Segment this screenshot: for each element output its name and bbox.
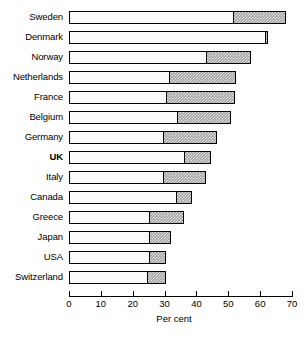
bar-segment-shaded (184, 151, 211, 164)
bar-segment-base (69, 71, 169, 84)
bar-area (66, 31, 308, 44)
x-axis-tick (69, 291, 70, 296)
bar-chart: SwedenDenmarkNorwayNetherlandsFranceBelg… (0, 0, 308, 339)
category-label-usa: USA (0, 252, 66, 262)
bar-area (66, 171, 308, 184)
x-axis-tick-label: 20 (127, 298, 138, 309)
bar-segment-base (69, 251, 149, 264)
bar-segment-base (69, 211, 149, 224)
bar-segment-base (69, 151, 184, 164)
category-label-uk: UK (0, 152, 66, 162)
chart-row: Netherlands (0, 67, 308, 87)
x-axis-tick (260, 291, 261, 296)
bar-segment-shaded (147, 271, 166, 284)
category-label-italy: Italy (0, 172, 66, 182)
bar-segment-shaded (149, 211, 184, 224)
chart-row: Norway (0, 47, 308, 67)
chart-row: USA (0, 247, 308, 267)
bar-segment-base (69, 271, 147, 284)
bar-area (66, 131, 308, 144)
x-axis-tick-label: 40 (191, 298, 202, 309)
x-axis-title: Per cent (0, 313, 308, 324)
bar-denmark[interactable] (69, 31, 268, 44)
bar-italy[interactable] (69, 171, 206, 184)
category-label-germany: Germany (0, 132, 66, 142)
bar-area (66, 51, 308, 64)
bar-segment-shaded (177, 111, 231, 124)
bar-uk[interactable] (69, 151, 211, 164)
bar-japan[interactable] (69, 231, 171, 244)
x-axis-tick (292, 291, 293, 296)
bar-area (66, 151, 308, 164)
bar-sweden[interactable] (69, 11, 286, 24)
category-label-norway: Norway (0, 52, 66, 62)
chart-row: UK (0, 147, 308, 167)
chart-row: Belgium (0, 107, 308, 127)
bar-segment-shaded (265, 31, 268, 44)
x-axis-tick (133, 291, 134, 296)
chart-rows: SwedenDenmarkNorwayNetherlandsFranceBelg… (0, 7, 308, 287)
bar-area (66, 231, 308, 244)
chart-row: Japan (0, 227, 308, 247)
category-label-switzerland: Switzerland (0, 272, 66, 282)
bar-area (66, 211, 308, 224)
x-axis-tick-label: 50 (223, 298, 234, 309)
bar-area (66, 11, 308, 24)
x-axis-tick-label: 60 (255, 298, 266, 309)
x-axis-tick (228, 291, 229, 296)
category-label-japan: Japan (0, 232, 66, 242)
bar-segment-base (69, 191, 176, 204)
x-axis-line (69, 296, 293, 297)
x-axis-tick-label: 30 (159, 298, 170, 309)
bar-canada[interactable] (69, 191, 192, 204)
category-label-sweden: Sweden (0, 12, 66, 22)
bar-segment-shaded (206, 51, 251, 64)
bar-area (66, 111, 308, 124)
bar-segment-shaded (149, 251, 167, 264)
bar-segment-shaded (233, 11, 286, 24)
bar-segment-base (69, 171, 163, 184)
chart-row: Greece (0, 207, 308, 227)
chart-row: Denmark (0, 27, 308, 47)
x-axis-tick-label: 0 (66, 298, 71, 309)
bar-segment-shaded (176, 191, 192, 204)
x-axis-tick (196, 291, 197, 296)
bar-germany[interactable] (69, 131, 217, 144)
bar-greece[interactable] (69, 211, 184, 224)
bar-norway[interactable] (69, 51, 251, 64)
category-label-france: France (0, 92, 66, 102)
bar-segment-base (69, 111, 177, 124)
bar-usa[interactable] (69, 251, 166, 264)
bar-segment-base (69, 131, 163, 144)
category-label-denmark: Denmark (0, 32, 66, 42)
bar-segment-base (69, 91, 166, 104)
category-label-belgium: Belgium (0, 112, 66, 122)
x-axis-tick (101, 291, 102, 296)
category-label-greece: Greece (0, 212, 66, 222)
bar-area (66, 71, 308, 84)
category-label-canada: Canada (0, 192, 66, 202)
bar-segment-base (69, 11, 233, 24)
bar-segment-shaded (169, 71, 236, 84)
bar-area (66, 91, 308, 104)
bar-belgium[interactable] (69, 111, 231, 124)
bar-france[interactable] (69, 91, 235, 104)
bar-area (66, 191, 308, 204)
chart-row: Sweden (0, 7, 308, 27)
bar-segment-shaded (163, 171, 206, 184)
x-axis-tick-labels: 010203040506070 (0, 298, 308, 310)
bar-segment-shaded (149, 231, 171, 244)
bar-area (66, 251, 308, 264)
bar-switzerland[interactable] (69, 271, 166, 284)
bar-segment-shaded (166, 91, 234, 104)
bar-netherlands[interactable] (69, 71, 236, 84)
chart-row: Italy (0, 167, 308, 187)
bar-area (66, 271, 308, 284)
x-axis-tick-label: 10 (96, 298, 107, 309)
chart-row: Switzerland (0, 267, 308, 287)
bar-segment-base (69, 31, 265, 44)
chart-row: Germany (0, 127, 308, 147)
x-axis-tick (165, 291, 166, 296)
category-label-netherlands: Netherlands (0, 72, 66, 82)
chart-row: France (0, 87, 308, 107)
